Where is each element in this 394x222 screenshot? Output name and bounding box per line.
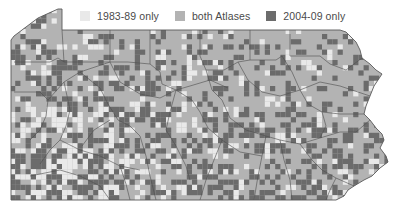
legend-swatch-dark <box>266 11 276 21</box>
map-legend: 1983-89 only both Atlases 2004-09 only <box>80 9 361 23</box>
legend-item-1983-89-only: 1983-89 only <box>80 10 159 22</box>
pennsylvania-map <box>0 0 394 222</box>
legend-item-both-atlases: both Atlases <box>175 10 250 22</box>
legend-label: 2004-09 only <box>283 10 345 22</box>
atlas-map: 1983-89 only both Atlases 2004-09 only <box>0 0 394 222</box>
legend-item-2004-09-only: 2004-09 only <box>266 10 345 22</box>
legend-swatch-light <box>80 11 90 21</box>
legend-label: 1983-89 only <box>97 10 159 22</box>
atlas-blocks <box>0 0 394 222</box>
legend-swatch-medium <box>175 11 185 21</box>
legend-label: both Atlases <box>192 10 250 22</box>
